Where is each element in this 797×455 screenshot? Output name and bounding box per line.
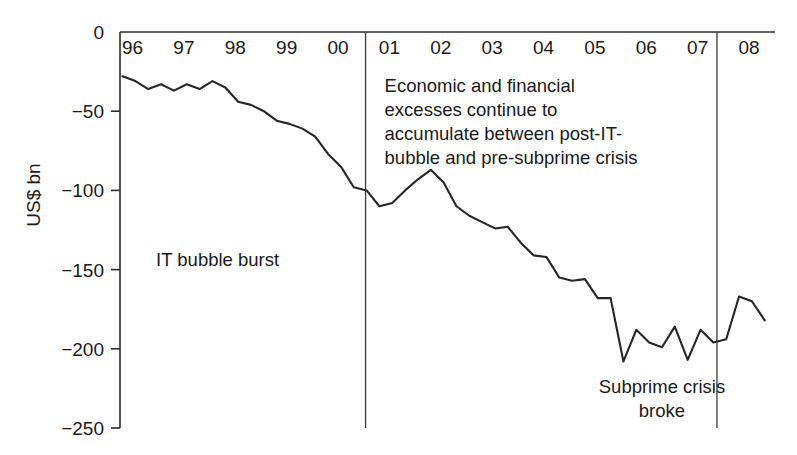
y-tick-label: −100 — [61, 180, 104, 201]
y-tick-label: −200 — [61, 339, 104, 360]
subprime-crisis-broke-line: Subprime crisis — [599, 376, 725, 397]
x-tick-label: 96 — [122, 37, 143, 58]
chart-annotations: IT bubble burstEconomic and financialexc… — [156, 75, 725, 421]
line-chart: 0−50−100−150−200−250 9697989900010203040… — [0, 0, 797, 455]
x-tick-label: 99 — [276, 37, 297, 58]
y-axis-title: US$ bn — [23, 163, 44, 226]
x-tick-label: 00 — [327, 37, 348, 58]
x-tick-label: 01 — [379, 37, 400, 58]
excesses-note-line: Economic and financial — [385, 75, 575, 96]
y-tick-label: −50 — [72, 101, 104, 122]
x-tick-label: 98 — [225, 37, 246, 58]
x-tick-label: 97 — [173, 37, 194, 58]
x-tick-label: 06 — [636, 37, 657, 58]
y-axis-tick-labels: 0−50−100−150−200−250 — [61, 22, 104, 439]
x-tick-label: 04 — [533, 37, 555, 58]
x-tick-label: 08 — [738, 37, 759, 58]
excesses-note-line: bubble and pre-subprime crisis — [385, 147, 638, 168]
subprime-crisis-broke-line: broke — [639, 400, 685, 421]
excesses-note-line: accumulate between post-IT- — [385, 123, 623, 144]
x-tick-label: 07 — [687, 37, 708, 58]
y-tick-label: −250 — [61, 418, 104, 439]
y-axis-ticks — [111, 111, 120, 428]
y-tick-label: 0 — [93, 22, 104, 43]
y-tick-label: −150 — [61, 260, 104, 281]
x-axis-tick-labels: 96979899000102030405060708 — [122, 37, 760, 58]
x-tick-label: 02 — [430, 37, 451, 58]
excesses-note-line: excesses continue to — [385, 99, 558, 120]
x-tick-label: 03 — [482, 37, 503, 58]
x-tick-label: 05 — [584, 37, 605, 58]
chart-figure: 0−50−100−150−200−250 9697989900010203040… — [0, 0, 797, 455]
it-bubble-burst-line: IT bubble burst — [156, 249, 279, 270]
